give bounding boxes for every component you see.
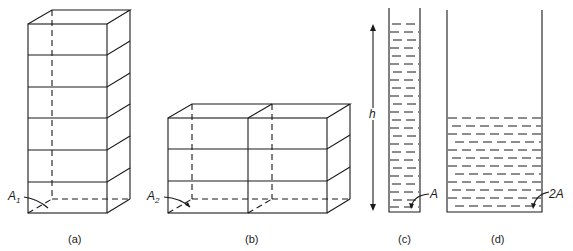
panel-d-container: 2A (d) — [447, 10, 564, 245]
area-label-c: A — [429, 187, 438, 201]
panel-b-block: A2 (b) — [146, 104, 350, 245]
area-label-2a: 2A — [548, 187, 564, 201]
caption-c: (c) — [398, 233, 411, 245]
caption-b: (b) — [245, 233, 258, 245]
caption-a: (a) — [68, 233, 81, 245]
height-label-h: h — [369, 107, 376, 121]
caption-d: (d) — [491, 233, 504, 245]
area-label-a1: A1 — [7, 189, 20, 205]
liquid-d — [448, 118, 541, 206]
liquid-c — [390, 24, 419, 207]
layer-lines-a — [28, 41, 130, 182]
panel-c-tube: h A (c) — [369, 8, 438, 245]
area-label-a2: A2 — [146, 189, 160, 205]
hydrostatic-diagram: A1 (a) A2 (b) — [0, 0, 573, 251]
panel-a-column: A1 (a) — [7, 10, 130, 245]
